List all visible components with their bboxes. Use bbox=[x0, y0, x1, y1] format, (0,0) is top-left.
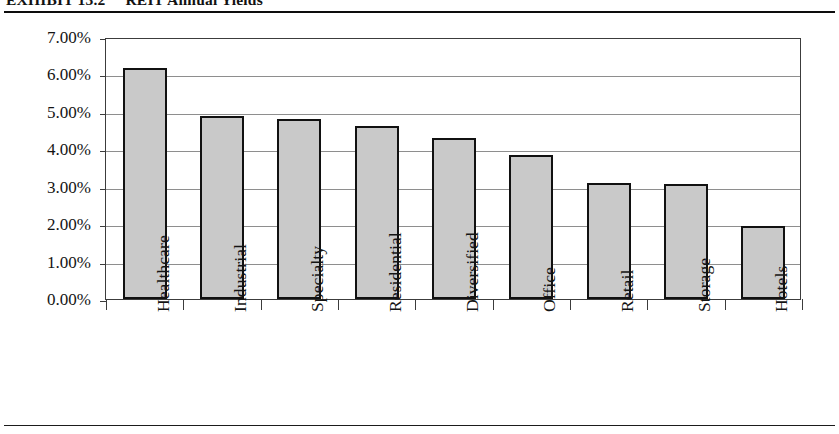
x-axis-tick bbox=[802, 299, 803, 310]
y-axis-label: 7.00% bbox=[0, 28, 91, 48]
exhibit-title-text: REIT Annual Yields bbox=[125, 0, 262, 8]
title-rule bbox=[4, 11, 835, 13]
bar-slot bbox=[725, 39, 802, 299]
y-axis-label: 1.00% bbox=[0, 253, 91, 273]
bar-slot bbox=[493, 39, 570, 299]
x-axis-tick bbox=[106, 299, 107, 310]
x-axis-category-label: Retail bbox=[617, 270, 638, 312]
x-axis-tick bbox=[493, 299, 494, 310]
footer-rule bbox=[4, 425, 835, 426]
x-axis-category-label: Hotels bbox=[771, 266, 792, 312]
exhibit-number: EXHIBIT 13.2 bbox=[6, 0, 105, 8]
y-axis-label: 4.00% bbox=[0, 140, 91, 160]
y-axis-label: 3.00% bbox=[0, 178, 91, 198]
y-axis-label: 2.00% bbox=[0, 215, 91, 235]
x-axis-category-label: Healthcare bbox=[153, 235, 174, 312]
x-axis-tick bbox=[570, 299, 571, 310]
x-axis-tick bbox=[647, 299, 648, 310]
x-axis-tick bbox=[338, 299, 339, 310]
x-axis-tick bbox=[261, 299, 262, 310]
x-axis-category-label: Diversified bbox=[462, 232, 483, 312]
x-axis-category-label: Specialty bbox=[307, 246, 328, 312]
x-axis-category-label: Industrial bbox=[230, 244, 251, 312]
x-axis-category-label: Office bbox=[539, 267, 560, 312]
bar-slot bbox=[570, 39, 647, 299]
y-axis-label: 0.00% bbox=[0, 290, 91, 310]
exhibit-title: EXHIBIT 13.2REIT Annual Yields bbox=[6, 0, 263, 9]
x-axis-tick bbox=[725, 299, 726, 310]
x-axis-category-label: Storage bbox=[694, 258, 715, 312]
x-axis-category-label: Residential bbox=[385, 232, 406, 312]
x-axis-tick bbox=[183, 299, 184, 310]
y-axis-label: 5.00% bbox=[0, 103, 91, 123]
y-axis-label: 6.00% bbox=[0, 65, 91, 85]
exhibit-page: EXHIBIT 13.2REIT Annual Yields 7.00%6.00… bbox=[0, 0, 839, 434]
x-axis-tick bbox=[415, 299, 416, 310]
